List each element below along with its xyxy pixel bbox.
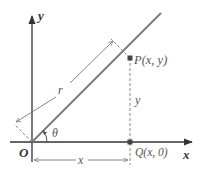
r-dimension-line-upper <box>70 41 113 83</box>
x-axis-label: x <box>182 147 190 162</box>
vertical-distance-label: y <box>134 93 141 107</box>
angle-arc <box>43 131 47 142</box>
r-extension-line-p <box>111 39 130 58</box>
point-p <box>128 56 133 61</box>
horizontal-distance-label: x <box>77 153 84 167</box>
point-q-label: Q(x, 0) <box>135 146 168 159</box>
point-p-label: P(x, y) <box>133 53 167 67</box>
point-q <box>128 140 133 145</box>
angle-label: θ <box>52 126 58 140</box>
origin-label: O <box>19 145 29 160</box>
polar-coordinates-diagram: r x θ P(x, y) Q(x, 0) y O x y <box>0 0 200 173</box>
r-extension-line-origin <box>14 124 32 142</box>
y-axis-label: y <box>36 8 44 23</box>
r-dimension-line-lower <box>16 97 56 122</box>
radius-label: r <box>58 83 63 97</box>
radius-ray <box>32 13 161 142</box>
